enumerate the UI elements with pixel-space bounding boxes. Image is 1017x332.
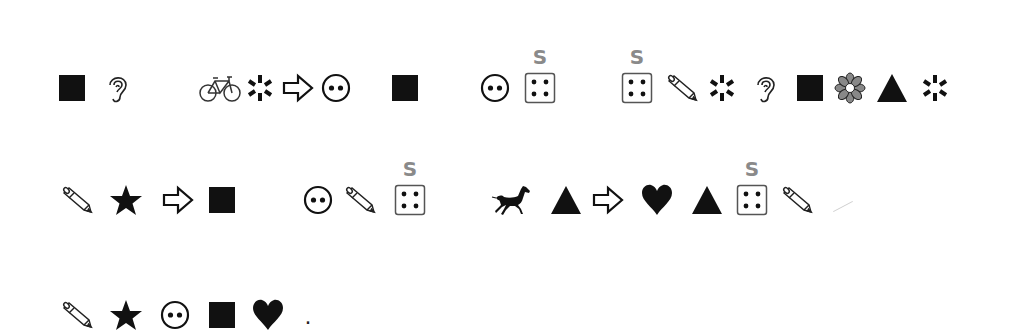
die-four-icon [393,183,427,217]
pencil-icon [343,183,377,217]
ear-icon [748,71,782,105]
black-star-icon [109,298,143,332]
die-four-icon [620,71,654,105]
black-heart-icon [251,298,285,332]
pencil-icon [780,183,814,217]
black-square-icon [205,298,239,332]
black-star-icon [109,183,143,217]
asterisk-icon [243,71,277,105]
ear-icon [100,71,134,105]
die-four-icon [523,71,557,105]
stray-mark [833,201,853,212]
black-square-icon [205,183,239,217]
face-icon [301,183,335,217]
asterisk-icon [918,71,952,105]
flower-icon [833,71,867,105]
black-triangle-icon [690,183,724,217]
asterisk-icon [705,71,739,105]
marker-label: S [745,159,759,179]
black-square-icon [388,71,422,105]
black-triangle-icon [875,71,909,105]
black-triangle-icon [549,183,583,217]
pencil-icon [665,71,699,105]
marker-label: S [403,159,417,179]
die-four-icon [735,183,769,217]
bicycle-icon [198,71,242,105]
black-square-icon [793,71,827,105]
outline-arrow-right-icon [281,71,315,105]
marker-label: S [630,47,644,67]
outline-arrow-right-icon [591,183,625,217]
marker-label: S [533,47,547,67]
black-square-icon [55,71,89,105]
horse-icon [490,183,534,217]
black-heart-icon [640,183,674,217]
face-icon [319,71,353,105]
face-icon [478,71,512,105]
outline-arrow-right-icon [161,183,195,217]
sequence-terminator: . [305,306,312,328]
face-icon [158,298,192,332]
pencil-icon [60,298,94,332]
pencil-icon [60,183,94,217]
